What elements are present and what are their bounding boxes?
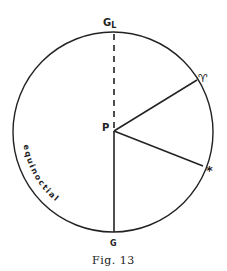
- line-to-aries: [114, 80, 197, 131]
- label-g-l: GL: [103, 17, 116, 30]
- great-circle: [13, 32, 213, 232]
- figure-13-diagram: GL P ♈ * G equinoctial Fig. 13: [0, 0, 227, 271]
- label-equinoctial: equinoctial: [21, 144, 61, 204]
- line-to-star: [114, 131, 203, 166]
- label-star: *: [206, 163, 213, 178]
- label-p: P: [102, 122, 109, 133]
- figure-caption: Fig. 13: [92, 254, 135, 267]
- label-g: G: [110, 239, 117, 248]
- label-aries: ♈: [198, 72, 208, 85]
